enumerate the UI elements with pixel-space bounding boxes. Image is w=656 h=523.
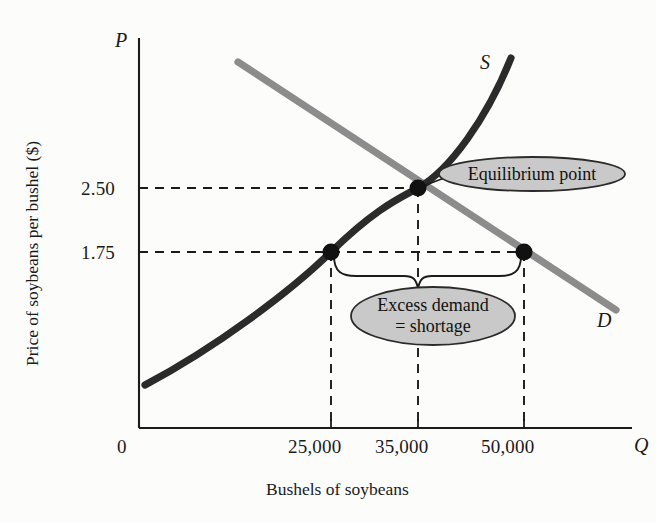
y-axis-title-wrapper: Price of soybeans per bushel ($) — [0, 0, 40, 523]
marker-quantity-demanded — [516, 244, 533, 261]
y-tick-label-250: 2.50 — [81, 179, 115, 198]
data-point-markers — [323, 180, 533, 261]
marker-quantity-supplied — [323, 244, 340, 261]
x-axis-ticks — [331, 419, 524, 428]
x-tick-label-25000: 25,000 — [288, 437, 341, 456]
shortage-brace-right — [418, 256, 521, 288]
demand-curve-label: D — [597, 310, 611, 330]
x-tick-label-50000: 50,000 — [481, 437, 534, 456]
y-axis-symbol-label: P — [115, 30, 127, 50]
shortage-brace — [334, 256, 521, 288]
equilibrium-callout-ellipse — [439, 157, 625, 191]
figure-canvas: P Q S D 2.50 1.75 0 25,000 35,000 50,000… — [0, 0, 656, 523]
supply-curve-label: S — [480, 52, 490, 72]
shortage-callout-ellipse — [351, 287, 515, 345]
axis-lines — [139, 38, 632, 428]
marker-equilibrium — [410, 180, 427, 197]
x-tick-label-35000: 35,000 — [375, 437, 428, 456]
shortage-brace-left — [334, 256, 418, 288]
x-axis-symbol-label: Q — [634, 435, 648, 455]
y-axis-title: Price of soybeans per bushel ($) — [22, 104, 43, 404]
x-tick-label-origin: 0 — [117, 437, 127, 456]
x-axis-title: Bushels of soybeans — [266, 481, 409, 499]
y-tick-label-175: 1.75 — [81, 243, 115, 262]
